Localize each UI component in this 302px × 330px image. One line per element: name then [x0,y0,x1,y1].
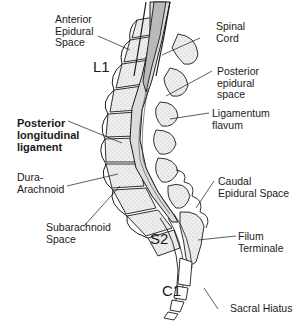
level-l1: L1 [93,58,110,75]
label-posterior-epidural-space: Posterior epidural space [217,66,259,101]
label-spinal-cord: Spinal Cord [216,21,245,44]
label-sacral-hiatus: Sacral Hiatus [230,303,292,315]
label-anterior-epidural-space: Anterior Epidural Space [55,14,94,49]
label-caudal-epidural-space: Caudal Epidural Space [218,176,289,199]
label-dura-arachnoid: Dura- Arachnoid [17,172,64,195]
level-s2: S2 [150,230,168,247]
label-ligamentum-flavum: Ligamentum flavum [212,108,270,131]
label-filum-terminale: Filum Terminale [238,231,284,254]
spine-illustration [0,0,302,330]
label-subarachnoid-space: Subarachnoid Space [46,222,111,245]
level-c1: C1 [162,282,181,299]
label-posterior-longitudinal-ligament: Posterior longitudinal ligament [17,117,79,153]
spine-diagram: Anterior Epidural Space Spinal Cord Post… [0,0,302,330]
